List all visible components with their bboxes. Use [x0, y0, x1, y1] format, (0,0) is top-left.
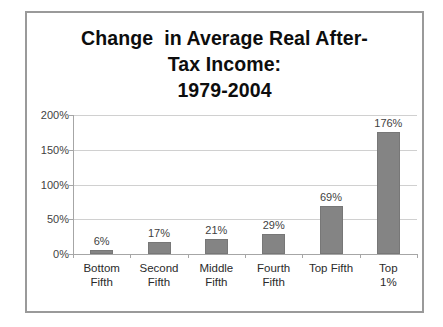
category-label-3: Fourth Fifth	[257, 261, 290, 289]
x-tick-mark-0	[73, 254, 74, 258]
bar-4	[320, 206, 343, 254]
chart-title: Change in Average Real After-Tax Income:…	[27, 25, 422, 103]
gridline-100%	[73, 185, 417, 186]
bar-2	[205, 239, 228, 254]
bar-value-label-5: 176%	[374, 117, 402, 129]
bar-value-label-2: 21%	[205, 224, 227, 236]
chart-title-line-1: Change in Average Real After-	[27, 25, 422, 51]
x-tick-mark-4	[302, 254, 303, 258]
chart-title-line-3: 1979-2004	[27, 77, 422, 103]
bar-value-label-3: 29%	[263, 219, 285, 231]
category-label-4: Top Fifth	[309, 261, 353, 275]
x-tick-mark-end	[417, 254, 418, 258]
bar-value-label-0: 6%	[94, 235, 110, 247]
x-tick-mark-1	[130, 254, 131, 258]
gridline-150%	[73, 150, 417, 151]
y-axis-label-group: 0%50%100%150%200%	[27, 115, 69, 260]
gridline-200%	[73, 115, 417, 116]
category-label-1: Second Fifth	[139, 261, 178, 289]
category-label-0: Bottom Fifth	[83, 261, 119, 289]
y-tick-label-100%: 100%	[41, 179, 69, 191]
plot-area: 0%50%100%150%200% 6%17%21%29%69%176% Bot…	[73, 115, 417, 260]
bar-value-label-4: 69%	[320, 191, 342, 203]
chart-title-line-2: Tax Income:	[27, 51, 422, 77]
category-label-2: Middle Fifth	[199, 261, 233, 289]
y-tick-label-50%: 50%	[47, 213, 69, 225]
slide-frame: Change in Average Real After-Tax Income:…	[25, 11, 424, 313]
y-axis-line	[73, 115, 74, 254]
x-tick-mark-3	[245, 254, 246, 258]
bar-5	[377, 132, 400, 254]
x-tick-mark-5	[360, 254, 361, 258]
category-label-5: Top 1%	[374, 261, 403, 289]
bar-1	[148, 242, 171, 254]
y-tick-label-150%: 150%	[41, 144, 69, 156]
y-tick-label-200%: 200%	[41, 109, 69, 121]
bar-0	[90, 250, 113, 254]
y-tick-label-0%: 0%	[53, 248, 69, 260]
gridline-50%	[73, 219, 417, 220]
bar-3	[262, 234, 285, 254]
bar-value-label-1: 17%	[148, 227, 170, 239]
x-tick-mark-2	[188, 254, 189, 258]
